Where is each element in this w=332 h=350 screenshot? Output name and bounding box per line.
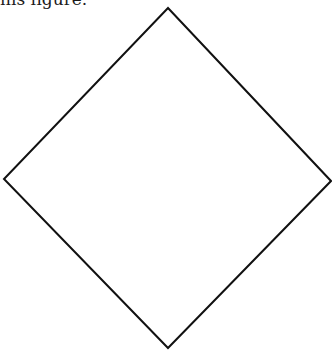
diamond-shape (4, 8, 331, 348)
diamond-figure (0, 0, 332, 350)
